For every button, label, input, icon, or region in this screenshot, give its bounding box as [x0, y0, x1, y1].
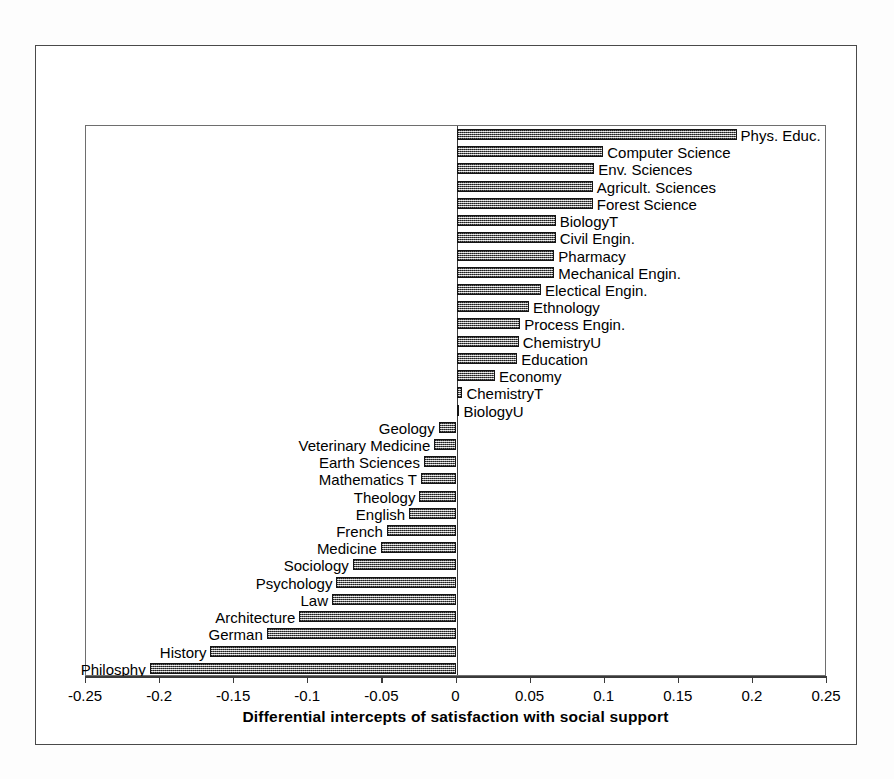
bar-label: Mechanical Engin.: [558, 266, 681, 282]
bar: Education: [457, 353, 518, 364]
x-tick-label: 0.25: [811, 688, 840, 704]
x-tick: [159, 676, 160, 683]
bar: Sociology: [353, 559, 457, 570]
bar: French: [387, 525, 457, 536]
bar: Civil Engin.: [457, 232, 556, 243]
x-tick: [678, 676, 679, 683]
bar-label: Pharmacy: [558, 249, 626, 265]
bar: Electical Engin.: [457, 284, 541, 295]
bar-row: French: [86, 523, 825, 540]
bar: BiologyU: [457, 405, 460, 416]
bar-label: Sociology: [284, 558, 349, 574]
bar-label: BiologyU: [463, 404, 523, 420]
bar: Medicine: [381, 542, 457, 553]
plot-area: Phys. Educ.Computer ScienceEnv. Sciences…: [85, 125, 826, 676]
x-tick: [233, 676, 234, 683]
bar-row: Law: [86, 592, 825, 609]
bar-label: ChemistryU: [523, 335, 601, 351]
bar: Philosphy: [150, 663, 457, 674]
bar-label: Ethnology: [533, 300, 600, 316]
bar: German: [267, 628, 457, 639]
bar-row: Agricult. Sciences: [86, 179, 825, 196]
bar-label: Forest Science: [597, 197, 697, 213]
bar-label: Process Engin.: [524, 317, 625, 333]
bar-label: German: [209, 627, 263, 643]
x-tick-label: 0.05: [515, 688, 544, 704]
bars-layer: Phys. Educ.Computer ScienceEnv. Sciences…: [86, 126, 825, 675]
bar-row: Civil Engin.: [86, 230, 825, 247]
bar-label: Veterinary Medicine: [299, 438, 431, 454]
bar-row: Pharmacy: [86, 248, 825, 265]
x-tick-label: 0: [451, 688, 459, 704]
x-tick-label: 0.2: [741, 688, 762, 704]
x-tick: [381, 676, 382, 683]
bar-label: BiologyT: [560, 214, 618, 230]
bar: History: [210, 646, 456, 657]
bar: Forest Science: [457, 198, 593, 209]
bar-row: Geology: [86, 420, 825, 437]
bar: Economy: [457, 370, 496, 381]
bar: ChemistryT: [457, 387, 463, 398]
bar-row: History: [86, 644, 825, 661]
bar-row: Process Engin.: [86, 316, 825, 333]
bar-row: Env. Sciences: [86, 161, 825, 178]
x-tick-label: -0.15: [216, 688, 250, 704]
bar: Agricult. Sciences: [457, 181, 593, 192]
bar-row: Ethnology: [86, 299, 825, 316]
bar: Process Engin.: [457, 318, 521, 329]
bar-row: Medicine: [86, 540, 825, 557]
bar-row: Sociology: [86, 557, 825, 574]
chart-figure: Phys. Educ.Computer ScienceEnv. Sciences…: [0, 0, 894, 779]
bar-row: BiologyT: [86, 213, 825, 230]
bar: Geology: [439, 422, 457, 433]
bar-label: English: [356, 507, 405, 523]
x-tick-label: -0.1: [294, 688, 320, 704]
bar: Architecture: [299, 611, 456, 622]
bar: Env. Sciences: [457, 163, 595, 174]
bar-label: ChemistryT: [466, 386, 543, 402]
bar-row: Mechanical Engin.: [86, 265, 825, 282]
bar-label: Psychology: [256, 576, 333, 592]
x-tick: [530, 676, 531, 683]
x-tick-label: -0.25: [68, 688, 102, 704]
bar: English: [409, 508, 456, 519]
x-tick: [85, 676, 86, 683]
bar: Mechanical Engin.: [457, 267, 555, 278]
x-tick: [752, 676, 753, 683]
bar: BiologyT: [457, 215, 556, 226]
bar-label: Civil Engin.: [560, 231, 635, 247]
x-axis: -0.25-0.2-0.15-0.1-0.0500.050.10.150.20.…: [85, 676, 826, 678]
bar-row: Veterinary Medicine: [86, 437, 825, 454]
bar: ChemistryU: [457, 336, 519, 347]
bar-row: ChemistryU: [86, 334, 825, 351]
bar-label: Architecture: [215, 610, 295, 626]
bar-row: Economy: [86, 368, 825, 385]
bar: Pharmacy: [457, 250, 555, 261]
bar: Veterinary Medicine: [434, 439, 456, 450]
bar-row: German: [86, 626, 825, 643]
bar-label: Economy: [499, 369, 562, 385]
bar-row: Earth Sciences: [86, 454, 825, 471]
bar: Earth Sciences: [424, 456, 457, 467]
x-tick-label: -0.05: [364, 688, 398, 704]
x-tick: [307, 676, 308, 683]
bar-row: Psychology: [86, 575, 825, 592]
bar-row: Theology: [86, 489, 825, 506]
bar-label: Earth Sciences: [319, 455, 420, 471]
bar-row: Mathematics T: [86, 471, 825, 488]
bar: Mathematics T: [421, 473, 457, 484]
x-tick-label: 0.1: [593, 688, 614, 704]
bar-label: Education: [521, 352, 588, 368]
x-tick-label: 0.15: [663, 688, 692, 704]
bar-label: French: [336, 524, 383, 540]
bar-label: Geology: [379, 421, 435, 437]
x-tick-label: -0.2: [146, 688, 172, 704]
bar-label: Mathematics T: [319, 472, 417, 488]
bar-row: Architecture: [86, 609, 825, 626]
bar-label: Computer Science: [607, 145, 730, 161]
bar-label: Electical Engin.: [545, 283, 648, 299]
x-tick: [456, 676, 457, 683]
bar-label: History: [160, 645, 207, 661]
bar-row: Computer Science: [86, 144, 825, 161]
bar-row: Forest Science: [86, 196, 825, 213]
